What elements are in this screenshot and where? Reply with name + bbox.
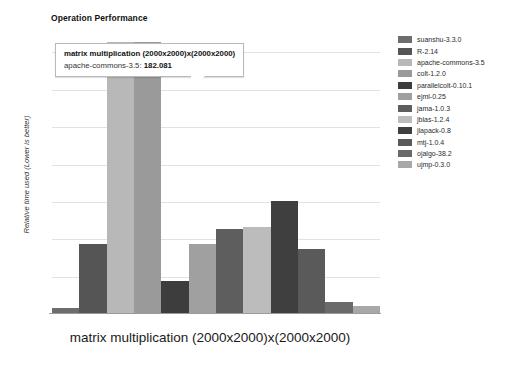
legend-item[interactable]: colt-1.2.0	[398, 68, 485, 79]
legend-swatch-icon	[398, 70, 412, 77]
legend-item-label: ujmp-0.3.0	[417, 161, 450, 168]
legend-item-label: jama-1.0.3	[417, 105, 450, 112]
tooltip-series-label: apache-commons-3.5:	[64, 61, 142, 70]
legend-swatch-icon	[398, 116, 412, 123]
legend-swatch-icon	[398, 93, 412, 100]
legend-item[interactable]: apache-commons-3.5	[398, 57, 485, 68]
bar-colt-1.2.0[interactable]	[134, 42, 161, 313]
y-axis-label: Relative time used (Lower is better)	[22, 105, 31, 245]
chart-page: Operation Performance Relative time used…	[0, 0, 508, 366]
legend-swatch-icon	[398, 150, 412, 157]
bar-jblas-1.2.4[interactable]	[243, 227, 270, 313]
legend-item[interactable]: jblas-1.2.4	[398, 114, 485, 125]
bar-ejml-0.25[interactable]	[189, 244, 216, 313]
legend-item-label: apache-commons-3.5	[417, 59, 485, 66]
bar-apache-commons-3.5[interactable]	[107, 42, 134, 313]
data-tooltip: matrix multiplication (2000x2000)x(2000x…	[55, 43, 244, 77]
legend-item[interactable]: suanshu-3.3.0	[398, 34, 485, 45]
legend-item-label: parallelcolt-0.10.1	[417, 82, 472, 89]
legend-item[interactable]: ojalgo-38.2	[398, 148, 485, 159]
tooltip-value: 182.081	[144, 61, 172, 70]
x-axis-line	[49, 313, 381, 314]
legend-item[interactable]: jlapack-0.8	[398, 125, 485, 136]
chart-title: Operation Performance	[51, 13, 148, 23]
legend-item[interactable]: ejml-0.25	[398, 91, 485, 102]
legend-swatch-icon	[398, 139, 412, 146]
legend-item-label: mtj-1.0.4	[417, 139, 444, 146]
tooltip-pointer-icon	[191, 76, 205, 88]
legend-item-label: colt-1.2.0	[417, 70, 446, 77]
legend-item[interactable]: jama-1.0.3	[398, 102, 485, 113]
bar-jlapack-0.8[interactable]	[271, 201, 298, 313]
x-axis-caption: matrix multiplication (2000x2000)x(2000x…	[0, 330, 420, 345]
legend-swatch-icon	[398, 127, 412, 134]
legend-item-label: R-2.14	[417, 48, 438, 55]
legend-item[interactable]: R-2.14	[398, 45, 485, 56]
legend-item-label: ejml-0.25	[417, 93, 446, 100]
tooltip-value-line: apache-commons-3.5: 182.081	[64, 61, 235, 70]
legend-swatch-icon	[398, 82, 412, 89]
tooltip-series-name: matrix multiplication (2000x2000)x(2000x…	[64, 49, 235, 58]
legend-item-label: jblas-1.2.4	[417, 116, 449, 123]
legend-item[interactable]: mtj-1.0.4	[398, 137, 485, 148]
bar-parallelcolt-0.10.1[interactable]	[161, 281, 188, 313]
legend-item-label: suanshu-3.3.0	[417, 36, 461, 43]
bar-mtj-1.0.4[interactable]	[298, 249, 325, 313]
legend-item[interactable]: ujmp-0.3.0	[398, 159, 485, 170]
legend-item-label: jlapack-0.8	[417, 127, 451, 134]
bar-ojalgo-38.2[interactable]	[325, 302, 352, 313]
bar-R-2.14[interactable]	[79, 244, 106, 313]
bar-ujmp-0.3.0[interactable]	[353, 306, 380, 313]
legend-swatch-icon	[398, 48, 412, 55]
legend-swatch-icon	[398, 105, 412, 112]
legend-item[interactable]: parallelcolt-0.10.1	[398, 80, 485, 91]
bar-jama-1.0.3[interactable]	[216, 229, 243, 313]
legend-swatch-icon	[398, 161, 412, 168]
legend-swatch-icon	[398, 59, 412, 66]
legend: suanshu-3.3.0R-2.14apache-commons-3.5col…	[398, 34, 485, 171]
legend-item-label: ojalgo-38.2	[417, 150, 452, 157]
legend-swatch-icon	[398, 36, 412, 43]
